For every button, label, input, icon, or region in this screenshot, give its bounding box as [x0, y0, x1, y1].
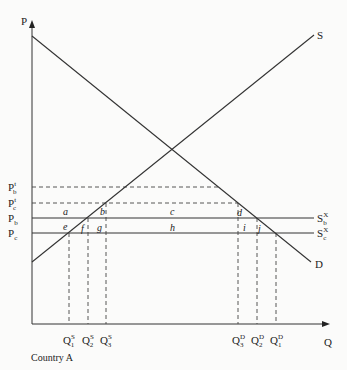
demand-curve-label: D — [315, 258, 323, 270]
world-supply-labels: SXb SXc — [317, 211, 328, 242]
area-f-label: f — [81, 223, 85, 234]
area-g-label: g — [97, 222, 102, 233]
area-i-label: i — [243, 222, 246, 233]
x-axis-label: Q — [324, 336, 332, 348]
sbx-label: SXb — [317, 211, 328, 227]
q3s-label: QS3 — [100, 333, 112, 349]
area-h-label: h — [170, 222, 175, 233]
q1s-label: QS1 — [63, 333, 75, 349]
area-d-label: d — [237, 207, 243, 218]
area-e-label: e — [63, 221, 68, 232]
q3d-label: QD3 — [232, 333, 245, 349]
q2d-label: QD2 — [251, 333, 264, 349]
area-c-label: c — [170, 206, 175, 217]
country-caption: Country A — [31, 352, 74, 363]
tariff-price-lines — [32, 187, 238, 203]
scx-label: SXc — [317, 226, 328, 242]
supply-curve-label: S — [317, 29, 323, 41]
price-labels: Ptb Ptc Pb Pc — [8, 180, 18, 242]
pc-label: Pc — [8, 227, 17, 242]
tariff-diagram: P Q S D Ptb Ptc Pb Pc — [0, 0, 347, 370]
pb-label: Pb — [8, 212, 18, 227]
y-axis-label: P — [21, 15, 27, 27]
quantity-labels: QS1 QS2 QS3 QD3 QD2 QD1 — [63, 333, 283, 349]
x-axis-arrow-icon — [322, 321, 330, 327]
area-b-label: b — [100, 206, 105, 217]
pct-label: Ptc — [8, 196, 16, 212]
area-a-label: a — [63, 206, 68, 217]
area-labels: a b c d e f g h i j — [63, 206, 261, 234]
y-axis-arrow-icon — [29, 20, 35, 28]
q2s-label: QS2 — [82, 333, 94, 349]
pbt-label: Ptb — [8, 180, 17, 196]
q1d-label: QD1 — [270, 333, 283, 349]
